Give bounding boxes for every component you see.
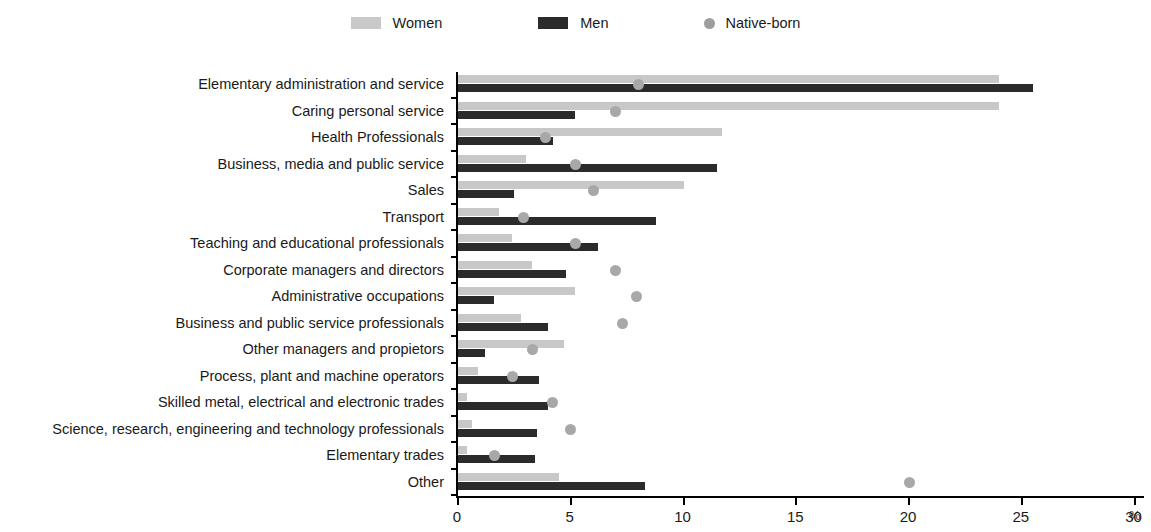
bar-women[interactable] <box>458 340 564 348</box>
plot-area: 051015202530 <box>456 72 1144 496</box>
marker-native-born[interactable] <box>570 159 581 170</box>
marker-native-born[interactable] <box>518 212 529 223</box>
category-axis-labels: Elementary administration and serviceCar… <box>0 72 450 496</box>
category-label: Sales <box>0 182 450 199</box>
bar-men[interactable] <box>458 402 548 410</box>
chart-row <box>456 417 1144 444</box>
bar-men[interactable] <box>458 429 537 437</box>
category-label: Elementary administration and service <box>0 76 450 93</box>
bar-men[interactable] <box>458 84 1033 92</box>
bar-women[interactable] <box>458 208 499 216</box>
marker-native-born[interactable] <box>507 371 518 382</box>
legend-item-native-born[interactable]: Native-born <box>704 15 800 31</box>
bar-men[interactable] <box>458 190 514 198</box>
bar-men[interactable] <box>458 164 717 172</box>
bar-men[interactable] <box>458 111 575 119</box>
legend-swatch-men <box>538 17 568 29</box>
marker-native-born[interactable] <box>527 344 538 355</box>
legend-item-men[interactable]: Men <box>538 15 608 31</box>
category-label: Skilled metal, electrical and electronic… <box>0 394 450 411</box>
bar-men[interactable] <box>458 323 548 331</box>
bar-women[interactable] <box>458 128 722 136</box>
marker-native-born[interactable] <box>565 424 576 435</box>
bar-men[interactable] <box>458 137 553 145</box>
chart-row <box>456 390 1144 417</box>
chart-row <box>456 258 1144 285</box>
category-label: Other managers and propietors <box>0 341 450 358</box>
marker-native-born[interactable] <box>610 265 621 276</box>
bar-women[interactable] <box>458 234 512 242</box>
bar-men[interactable] <box>458 296 494 304</box>
chart-row <box>456 470 1144 497</box>
x-axis-tick <box>908 498 910 505</box>
category-label: Other <box>0 474 450 491</box>
x-axis-tick <box>457 498 459 505</box>
category-label: Teaching and educational professionals <box>0 235 450 252</box>
x-axis-tick-label: 5 <box>566 508 574 525</box>
x-axis-tick <box>1134 498 1136 505</box>
chart-row <box>456 337 1144 364</box>
bar-men[interactable] <box>458 482 645 490</box>
chart-row <box>456 205 1144 232</box>
x-axis-tick <box>795 498 797 505</box>
chart-row <box>456 364 1144 391</box>
legend-label: Women <box>393 15 443 31</box>
marker-native-born[interactable] <box>547 397 558 408</box>
marker-native-born[interactable] <box>904 477 915 488</box>
bar-women[interactable] <box>458 287 575 295</box>
chart-row <box>456 178 1144 205</box>
category-label: Health Professionals <box>0 129 450 146</box>
marker-native-born[interactable] <box>570 238 581 249</box>
marker-native-born[interactable] <box>631 291 642 302</box>
x-axis-tick-label: 20 <box>900 508 917 525</box>
x-axis-tick-label: 25 <box>1012 508 1029 525</box>
bar-women[interactable] <box>458 314 521 322</box>
bar-women[interactable] <box>458 181 684 189</box>
category-label: Business, media and public service <box>0 156 450 173</box>
chart-row <box>456 311 1144 338</box>
bar-men[interactable] <box>458 376 539 384</box>
category-label: Transport <box>0 209 450 226</box>
chart-row <box>456 125 1144 152</box>
bar-women[interactable] <box>458 261 532 269</box>
occupation-distribution-chart: WomenMenNative-born Elementary administr… <box>0 0 1151 532</box>
bar-women[interactable] <box>458 393 467 401</box>
bar-women[interactable] <box>458 446 467 454</box>
bar-women[interactable] <box>458 75 999 83</box>
bar-women[interactable] <box>458 367 478 375</box>
legend-swatch-women <box>351 17 381 29</box>
chart-row <box>456 284 1144 311</box>
category-label: Caring personal service <box>0 103 450 120</box>
x-axis-tick-label: 0 <box>453 508 461 525</box>
chart-row <box>456 231 1144 258</box>
category-label: Process, plant and machine operators <box>0 368 450 385</box>
chart-row <box>456 72 1144 99</box>
chart-row <box>456 99 1144 126</box>
x-axis-tick <box>683 498 685 505</box>
x-axis-line <box>456 496 1144 498</box>
x-axis-tick-label: 10 <box>674 508 691 525</box>
bar-men[interactable] <box>458 217 656 225</box>
marker-native-born[interactable] <box>489 450 500 461</box>
category-label: Corporate managers and directors <box>0 262 450 279</box>
marker-native-born[interactable] <box>610 106 621 117</box>
bar-women[interactable] <box>458 102 999 110</box>
bar-women[interactable] <box>458 473 559 481</box>
bar-men[interactable] <box>458 270 566 278</box>
category-label: Elementary trades <box>0 447 450 464</box>
chart-row <box>456 443 1144 470</box>
chart-legend: WomenMenNative-born <box>0 10 1151 36</box>
y-axis-tick <box>451 494 456 496</box>
category-label: Business and public service professional… <box>0 315 450 332</box>
legend-item-women[interactable]: Women <box>351 15 443 31</box>
legend-label: Men <box>580 15 608 31</box>
marker-native-born[interactable] <box>633 79 644 90</box>
bar-women[interactable] <box>458 420 472 428</box>
marker-native-born[interactable] <box>617 318 628 329</box>
bar-women[interactable] <box>458 155 526 163</box>
marker-native-born[interactable] <box>588 185 599 196</box>
legend-dot-native-born <box>704 18 715 29</box>
x-axis-tick-label: 15 <box>787 508 804 525</box>
bar-men[interactable] <box>458 349 485 357</box>
x-axis-tick <box>1021 498 1023 505</box>
